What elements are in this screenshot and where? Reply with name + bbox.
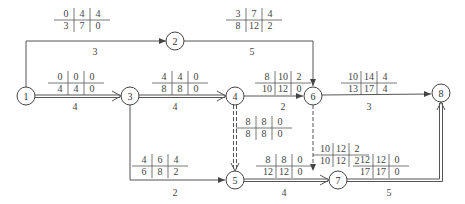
time-param: 4	[58, 83, 63, 94]
time-param: 2	[174, 166, 179, 177]
time-param: 2	[297, 71, 302, 82]
node-label: 1	[24, 91, 29, 102]
duration-label: 3	[367, 101, 372, 112]
time-param: 0	[297, 83, 302, 94]
duration-label: 2	[281, 101, 286, 112]
time-param: 4	[162, 71, 167, 82]
time-param: 4	[383, 71, 388, 82]
time-param: 0	[278, 128, 283, 139]
time-param: 0	[278, 116, 283, 127]
time-param: 0	[298, 166, 303, 177]
time-param: 8	[246, 128, 251, 139]
time-param: 0	[64, 8, 69, 19]
time-param: 0	[74, 71, 79, 82]
time-param: 8	[266, 154, 271, 165]
time-param: 13	[348, 83, 358, 94]
time-param: 0	[96, 20, 101, 31]
time-param: 8	[265, 71, 270, 82]
duration-label: 4	[282, 187, 287, 198]
time-param: 14	[364, 71, 374, 82]
arrow-6-8	[322, 94, 431, 95]
node-8: 8	[432, 84, 450, 102]
time-param: 12	[376, 154, 386, 165]
duration-label: 5	[387, 187, 392, 198]
time-param: 12	[278, 83, 288, 94]
node-1: 1	[17, 87, 35, 105]
node-label: 3	[128, 91, 133, 102]
time-param: 4	[178, 71, 183, 82]
time-param: 8	[162, 83, 167, 94]
node-label: 8	[439, 88, 444, 99]
time-param: 8	[262, 116, 267, 127]
activity-1-3-params: 0004404	[48, 71, 104, 112]
time-param: 8	[236, 20, 241, 31]
time-param: 2	[355, 143, 360, 154]
time-param: 8	[158, 166, 163, 177]
duration-label: 4	[73, 101, 78, 112]
node-label: 6	[311, 91, 316, 102]
time-param: 4	[268, 8, 273, 19]
time-param: 17	[376, 166, 386, 177]
network-diagram: 12345678 0443703374812250004404440880481…	[0, 0, 465, 204]
time-param: 17	[360, 166, 370, 177]
node-label: 7	[336, 175, 341, 186]
activity-3-4-params: 4408804	[152, 71, 208, 112]
time-param: 8	[178, 83, 183, 94]
arrow-2-6	[184, 41, 313, 86]
activity-2-6-params: 37481225	[226, 8, 282, 57]
time-param: 0	[194, 83, 199, 94]
time-param: 3	[64, 20, 69, 31]
time-param: 8	[262, 128, 267, 139]
time-param: 4	[96, 8, 101, 19]
time-param: 0	[395, 154, 400, 165]
activity-5-7-params: 880121204	[256, 154, 312, 198]
time-param: 0	[58, 71, 63, 82]
time-param: 17	[364, 83, 374, 94]
time-param: 0	[90, 71, 95, 82]
node-7: 7	[329, 171, 347, 189]
node-6: 6	[304, 87, 322, 105]
activity-3-5-params: 4646822	[132, 154, 188, 198]
time-param: 0	[90, 83, 95, 94]
duration-label: 5	[250, 46, 255, 57]
time-param: 10	[278, 71, 288, 82]
time-param: 12	[336, 155, 346, 166]
activity-6-8-params: 10144131743	[341, 71, 397, 112]
time-param: 12	[249, 20, 259, 31]
time-param: 10	[348, 71, 358, 82]
node-label: 5	[233, 175, 238, 186]
time-param: 4	[80, 8, 85, 19]
time-param: 0	[298, 154, 303, 165]
time-param: 12	[279, 166, 289, 177]
duration-label: 4	[173, 101, 178, 112]
activity-labels: 0443703374812250004404440880481021012021…	[48, 8, 409, 198]
time-param: 8	[246, 116, 251, 127]
activity-4-5-params: 880880	[236, 116, 292, 140]
activity-7-8-params: 12120171705	[353, 154, 409, 198]
time-param: 0	[395, 166, 400, 177]
time-param: 7	[80, 20, 85, 31]
time-param: 10	[262, 83, 272, 94]
node-2: 2	[166, 32, 184, 50]
time-param: 10	[320, 155, 330, 166]
node-label: 4	[233, 91, 238, 102]
duration-label: 3	[93, 46, 98, 57]
time-param: 6	[142, 166, 147, 177]
node-5: 5	[226, 171, 244, 189]
time-param: 10	[320, 143, 330, 154]
time-param: 4	[142, 154, 147, 165]
time-param: 12	[336, 143, 346, 154]
node-4: 4	[226, 87, 244, 105]
time-param: 3	[236, 8, 241, 19]
time-param: 6	[158, 154, 163, 165]
time-param: 4	[383, 83, 388, 94]
time-param: 4	[74, 83, 79, 94]
time-param: 2	[268, 20, 273, 31]
time-param: 8	[282, 154, 287, 165]
time-param: 12	[263, 166, 273, 177]
time-param: 4	[174, 154, 179, 165]
node-3: 3	[121, 87, 139, 105]
time-param: 12	[360, 154, 370, 165]
time-param: 0	[194, 71, 199, 82]
activity-1-2-params: 0443703	[54, 8, 110, 57]
